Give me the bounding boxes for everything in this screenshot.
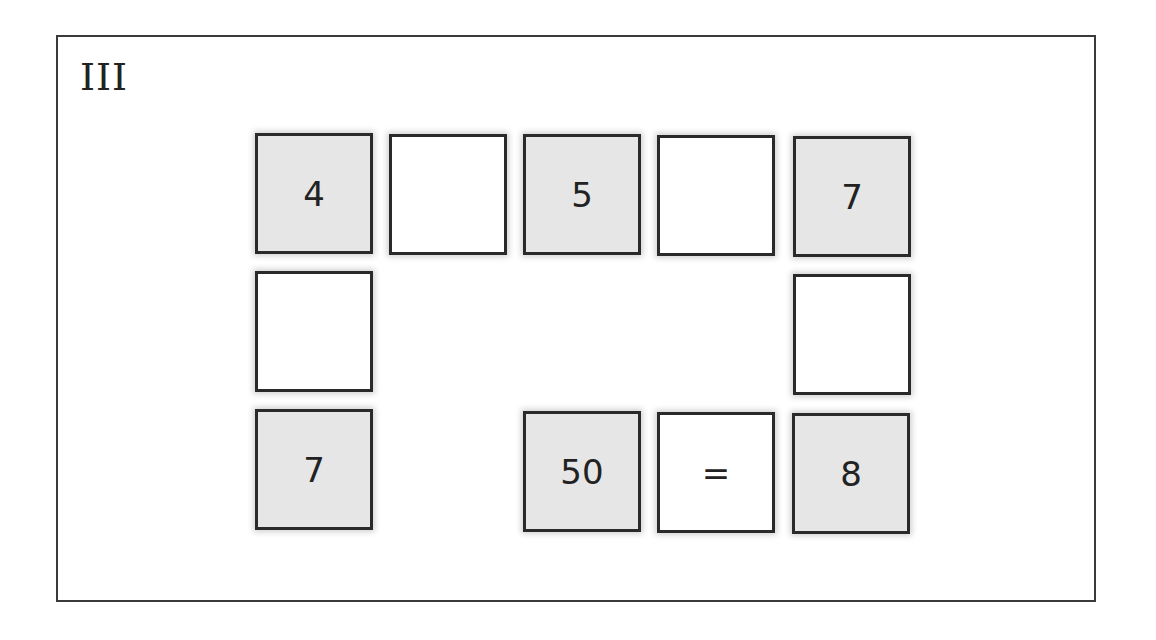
tile-row1-col1: 4	[255, 133, 373, 254]
tile-row1-col4-blank[interactable]	[657, 135, 775, 256]
tile-row1-col2-blank[interactable]	[389, 134, 507, 255]
tile-row3-col5: 8	[792, 413, 910, 534]
tile-row2-col1-blank[interactable]	[255, 271, 373, 392]
puzzle-label: III	[80, 58, 128, 96]
tile-row3-col1: 7	[255, 409, 373, 530]
tile-row1-col5: 7	[793, 136, 911, 257]
tile-row1-col3: 5	[523, 134, 641, 255]
tile-row2-col5-blank[interactable]	[793, 274, 911, 395]
tile-row3-col3: 50	[523, 411, 641, 532]
tile-row3-col4-equals: =	[657, 412, 775, 533]
